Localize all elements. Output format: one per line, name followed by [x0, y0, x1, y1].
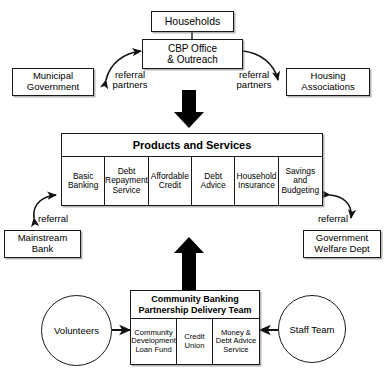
- node-government-welfare-dept[interactable]: Government Welfare Dept: [303, 230, 381, 258]
- cell-household-insurance[interactable]: Household Insurance: [235, 157, 278, 205]
- node-cbp-office[interactable]: CBP Office & Outreach: [142, 39, 243, 69]
- diagram-canvas: Community Banking Partnership model: [0, 0, 384, 370]
- group-delivery-team-cells: Community Development Loan Fund Credit U…: [131, 319, 259, 364]
- node-municipal-government[interactable]: Municipal Government: [12, 68, 94, 96]
- node-municipal-government-label: Municipal Government: [25, 71, 81, 92]
- node-staff-team[interactable]: Staff Team: [278, 295, 346, 363]
- group-delivery-team[interactable]: Community Banking Partnership Delivery T…: [130, 290, 260, 365]
- cell-debt-advice[interactable]: Debt Advice: [192, 157, 235, 205]
- node-volunteers[interactable]: Volunteers: [41, 295, 112, 366]
- cell-debt-repayment-service[interactable]: Debt Repayment Service: [105, 157, 148, 205]
- group-products-title: Products and Services: [62, 134, 322, 157]
- edge-label-referral-partners-right: referral partners: [226, 70, 282, 91]
- cell-community-development-loan-fund[interactable]: Community Development Loan Fund: [131, 319, 177, 364]
- node-housing-associations-label: Housing Associations: [299, 71, 356, 92]
- cell-money-debt-advice-service[interactable]: Money & Debt Advice Service: [213, 319, 259, 364]
- node-housing-associations[interactable]: Housing Associations: [286, 68, 370, 96]
- cell-basic-banking[interactable]: Basic Banking: [62, 157, 105, 205]
- group-delivery-team-title: Community Banking Partnership Delivery T…: [131, 291, 259, 319]
- node-staff-team-label: Staff Team: [289, 324, 334, 335]
- node-mainstream-bank[interactable]: Mainstream Bank: [4, 230, 81, 258]
- cell-savings-and-budgeting[interactable]: Savings and Budgeting: [279, 157, 322, 205]
- node-households-label: Households: [163, 16, 222, 28]
- diagram-title-partial: Community Banking Partnership model: [0, 0, 384, 2]
- node-households[interactable]: Households: [151, 11, 234, 32]
- thick-arrow-down: [174, 90, 204, 128]
- cell-credit-union[interactable]: Credit Union: [177, 319, 213, 364]
- node-cbp-office-label: CBP Office & Outreach: [165, 43, 220, 65]
- node-mainstream-bank-label: Mainstream Bank: [16, 233, 70, 254]
- cell-affordable-credit[interactable]: Affordable Credit: [149, 157, 192, 205]
- node-volunteers-label: Volunteers: [54, 325, 99, 336]
- node-government-welfare-dept-label: Government Welfare Dept: [312, 233, 371, 254]
- edge-label-referral-partners-left: referral partners: [102, 70, 158, 91]
- thick-arrow-up: [174, 237, 204, 290]
- group-products-cells: Basic Banking Debt Repayment Service Aff…: [62, 157, 322, 205]
- edge-label-referral-right: referral: [300, 214, 348, 224]
- edge-label-referral-left: referral: [38, 214, 86, 224]
- group-products-and-services[interactable]: Products and Services Basic Banking Debt…: [61, 133, 323, 206]
